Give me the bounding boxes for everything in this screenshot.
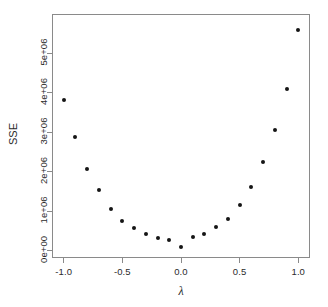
data-point [285, 87, 289, 91]
x-tick-label: -0.5 [102, 266, 142, 277]
y-tick-label: 4e+06 [38, 72, 49, 110]
y-tick-label: 5e+06 [38, 33, 49, 71]
x-tick-mark [239, 258, 240, 263]
x-tick-label: -1.0 [44, 266, 84, 277]
x-axis-label: λ [161, 284, 201, 299]
data-point [85, 167, 89, 171]
x-tick-label: 0.5 [220, 266, 260, 277]
data-point [191, 235, 195, 239]
x-tick-mark [181, 258, 182, 263]
x-tick-label: 1.0 [278, 266, 318, 277]
y-tick-label: 2e+06 [38, 151, 49, 189]
data-point [109, 207, 113, 211]
x-tick-mark [122, 258, 123, 263]
y-tick-label: 1e+06 [38, 191, 49, 229]
y-tick-label: 0e+00 [38, 230, 49, 268]
y-tick-label: 3e+06 [38, 112, 49, 150]
data-point [62, 98, 66, 102]
plot-frame [52, 14, 310, 258]
data-point [179, 245, 183, 249]
x-tick-mark [298, 258, 299, 263]
scatter-plot-figure: SSE λ 0e+001e+062e+063e+064e+065e+06 -1.… [0, 0, 328, 307]
data-point [249, 185, 253, 189]
x-tick-mark [63, 258, 64, 263]
x-tick-label: 0.0 [161, 266, 201, 277]
data-point [156, 236, 160, 240]
y-axis-label: SSE [7, 114, 19, 154]
